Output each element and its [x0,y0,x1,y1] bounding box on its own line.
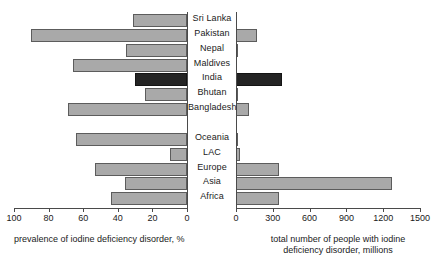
left-bar-row [14,88,187,102]
left-panel-axis-caption: prevalence of iodine deficiency disorder… [6,234,216,245]
category-label-lac: LAC [188,147,236,158]
bar-prevalence-africa [111,192,187,205]
bar-prevalence-india [135,73,187,86]
left-tick-label-80: 80 [31,213,67,224]
right-caption-line-2: deficiency disorder, millions [240,245,436,256]
left-bar-row [14,148,187,162]
right-bar-row [236,177,420,191]
right-bar-row [236,88,420,102]
category-label-pakistan: Pakistan [188,28,236,39]
bar-prevalence-maldives [73,59,187,72]
right-panel-axis-caption: total number of people with iodine defic… [240,234,436,256]
category-label-bhutan: Bhutan [188,87,236,98]
category-label-asia: Asia [188,176,236,187]
left-bar-row [14,192,187,206]
left-bar-row [14,133,187,147]
left-tick-60 [83,208,84,212]
right-tick-label-1500: 1500 [402,213,438,224]
chart-figure: Sri LankaPakistanNepalMaldivesIndiaBhuta… [0,0,444,268]
bar-total-asia [236,177,392,190]
bar-prevalence-pakistan [31,29,187,42]
left-tick-label-20: 20 [134,213,170,224]
right-tick-label-900: 900 [328,213,364,224]
right-bar-row [236,163,420,177]
left-panel-plot-area [14,12,187,208]
left-panel-x-axis [14,208,188,209]
left-bar-row [14,59,187,73]
category-label-africa: Africa [188,191,236,202]
bar-prevalence-bhutan [145,88,187,101]
category-label-maldives: Maldives [188,58,236,69]
right-tick-300 [273,208,274,212]
right-tick-label-1200: 1200 [365,213,401,224]
left-tick-label-0: 0 [169,213,205,224]
left-bar-row [14,177,187,191]
right-tick-1500 [420,208,421,212]
right-tick-600 [310,208,311,212]
right-tick-label-300: 300 [255,213,291,224]
left-bar-row [14,44,187,58]
left-tick-20 [152,208,153,212]
bar-prevalence-bangladesh [68,103,187,116]
left-bar-row [14,103,187,117]
bar-total-india [236,73,282,86]
category-label-bangladesh: Bangladesh [188,102,236,113]
right-tick-label-600: 600 [292,213,328,224]
right-tick-label-0: 0 [218,213,254,224]
category-label-oceania: Oceania [188,132,236,143]
bar-prevalence-oceania [76,133,187,146]
bar-total-africa [236,192,279,205]
category-label-nepal: Nepal [188,43,236,54]
right-bar-row [236,148,420,162]
left-bar-row [14,163,187,177]
left-tick-label-60: 60 [65,213,101,224]
left-tick-label-100: 100 [0,213,32,224]
right-bar-row [236,44,420,58]
bar-prevalence-asia [125,177,187,190]
right-bar-row [236,29,420,43]
category-label-india: India [188,72,236,83]
bar-total-bangladesh [236,103,249,116]
left-tick-80 [49,208,50,212]
left-bar-row [14,29,187,43]
bar-prevalence-nepal [126,44,187,57]
right-tick-900 [346,208,347,212]
bar-prevalence-lac [170,148,187,161]
left-bar-row [14,73,187,87]
right-bar-row [236,192,420,206]
left-bar-row [14,14,187,28]
left-tick-label-40: 40 [100,213,136,224]
right-tick-0 [236,208,237,212]
left-tick-40 [118,208,119,212]
category-label-sri-lanka: Sri Lanka [188,13,236,24]
right-panel-x-axis [236,208,421,209]
bar-prevalence-sri-lanka [133,14,187,27]
bar-total-europe [236,163,279,176]
right-caption-line-1: total number of people with iodine [240,234,436,245]
right-panel-plot-area [236,12,420,208]
bar-prevalence-europe [95,163,187,176]
right-bar-row [236,73,420,87]
left-tick-0 [187,208,188,212]
bar-total-pakistan [236,29,257,42]
right-bar-row [236,133,420,147]
category-label-europe: Europe [188,162,236,173]
category-label-column: Sri LankaPakistanNepalMaldivesIndiaBhuta… [188,12,236,208]
right-tick-1200 [383,208,384,212]
left-tick-100 [14,208,15,212]
right-bar-row [236,103,420,117]
